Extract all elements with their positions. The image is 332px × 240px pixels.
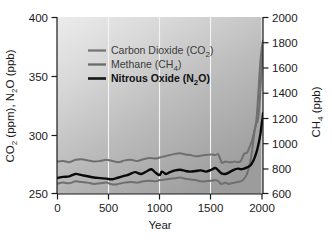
legend-label-ch4-p2: ) (178, 58, 182, 70)
left-axis: 400 350 300 250 CO2 (ppm), N2O (ppb) (4, 12, 57, 200)
left-axis-title: CO2 (ppm), N2O (ppb) (4, 49, 19, 162)
right-tick-label-800: 800 (272, 163, 291, 175)
left-axis-title-p4: O (ppb) (4, 49, 16, 88)
greenhouse-gas-concentration-chart: 400 350 300 250 CO2 (ppm), N2O (ppb) 200… (0, 0, 332, 240)
x-tick-label-0: 0 (54, 202, 60, 214)
x-axis: 0 500 1000 1500 2000 Year (54, 194, 275, 231)
left-axis-title-p2: (ppm), N (4, 93, 16, 141)
right-tick-label-1400: 1400 (272, 87, 298, 99)
x-tick-label-500: 500 (99, 202, 118, 214)
left-tick-label-300: 300 (29, 130, 48, 142)
left-tick-label-400: 400 (29, 12, 48, 24)
left-axis-title-p0: CO (4, 145, 16, 162)
left-tick-label-350: 350 (29, 71, 48, 83)
right-tick-label-1800: 1800 (272, 37, 298, 49)
right-axis-ticks (263, 18, 269, 194)
right-axis-title-p2: (ppb) (310, 86, 322, 116)
legend-label-co2-p2: ) (210, 44, 214, 56)
right-axis-title: CH4 (ppb) (310, 86, 325, 137)
left-axis-ticks (52, 18, 58, 194)
x-tick-label-1500: 1500 (198, 202, 224, 214)
right-tick-label-1600: 1600 (272, 62, 298, 74)
right-tick-label-1000: 1000 (272, 138, 298, 150)
right-tick-label-2000: 2000 (272, 12, 298, 24)
legend-label-n2o-p2: O) (198, 72, 210, 84)
legend-label-co2-p0: Carbon Dioxide (CO (111, 44, 206, 56)
left-tick-label-250: 250 (29, 188, 48, 200)
chart-figure: 400 350 300 250 CO2 (ppm), N2O (ppb) 200… (0, 0, 332, 240)
x-axis-title: Year (148, 219, 171, 231)
x-tick-label-1000: 1000 (147, 202, 173, 214)
right-tick-label-600: 600 (272, 188, 291, 200)
legend-label-n2o-p0: Nitrous Oxide (N (111, 72, 194, 84)
x-tick-label-2000: 2000 (249, 202, 275, 214)
x-axis-ticks (58, 194, 263, 200)
right-axis: 2000 1800 1600 1400 1200 1000 800 600 CH… (263, 12, 325, 200)
right-tick-label-1200: 1200 (272, 113, 298, 125)
right-axis-title-p0: CH (310, 121, 322, 138)
legend-label-ch4-p0: Methane (CH (111, 58, 173, 70)
